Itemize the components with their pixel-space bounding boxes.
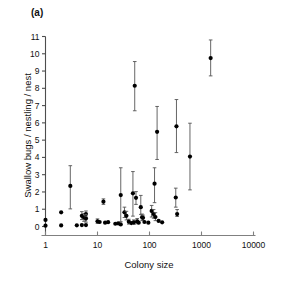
data-point-marker	[153, 215, 157, 219]
data-point-marker	[98, 220, 102, 224]
data-point-marker	[134, 196, 138, 200]
data-point-marker	[141, 216, 145, 220]
y-tick-label: 0	[35, 222, 40, 232]
data-points-group	[43, 40, 212, 228]
data-point-marker	[75, 223, 79, 227]
y-tick-label: 1	[35, 204, 40, 214]
x-axis-label: Colony size	[45, 259, 253, 270]
data-point-marker	[101, 200, 105, 204]
y-axis-label: Swallow bugs / nestling / nest	[22, 51, 33, 221]
y-tick-label: 3	[35, 170, 40, 180]
data-point-marker	[68, 184, 72, 188]
data-point-marker	[119, 222, 123, 226]
data-point-marker	[174, 124, 178, 128]
data-point-marker	[209, 56, 213, 60]
scatter-plot-canvas: 01234567891011110100100010000	[0, 0, 283, 282]
data-point-marker	[142, 220, 146, 224]
data-point-marker	[119, 193, 123, 197]
data-point-marker	[43, 224, 47, 228]
figure-panel-a: (a) Swallow bugs / nestling / nest Colon…	[0, 0, 283, 282]
data-point-marker	[174, 195, 178, 199]
data-point-marker	[59, 223, 63, 227]
y-tick-label: 2	[35, 187, 40, 197]
data-point-marker	[137, 221, 141, 225]
data-point-marker	[59, 210, 63, 214]
data-point-marker	[106, 220, 110, 224]
y-tick-label: 6	[35, 118, 40, 128]
panel-label: (a)	[31, 7, 43, 18]
data-point-marker	[133, 84, 137, 88]
x-tick-label: 100	[142, 240, 156, 250]
data-point-marker	[43, 218, 47, 222]
x-tick-label: 10000	[242, 240, 266, 250]
y-tick-label: 9	[35, 66, 40, 76]
data-point-marker	[80, 223, 84, 227]
data-point-marker	[124, 214, 128, 218]
x-tick-label: 10	[93, 240, 103, 250]
y-tick-label: 4	[35, 152, 40, 162]
y-tick-label: 8	[35, 83, 40, 93]
y-tick-label: 5	[35, 135, 40, 145]
data-point-marker	[139, 205, 143, 209]
y-tick-label: 11	[31, 32, 40, 42]
data-point-marker	[152, 182, 156, 186]
data-point-marker	[188, 154, 192, 158]
x-tick-label: 1000	[192, 240, 211, 250]
data-point-marker	[84, 223, 88, 227]
data-point-marker	[160, 220, 164, 224]
data-point-marker	[155, 130, 159, 134]
axes-group: 01234567891011110100100010000	[30, 32, 266, 250]
data-point-marker	[146, 221, 150, 225]
x-tick-label: 1	[43, 240, 48, 250]
data-point-marker	[84, 216, 88, 220]
y-tick-label: 7	[35, 101, 40, 111]
data-point-marker	[175, 212, 179, 216]
